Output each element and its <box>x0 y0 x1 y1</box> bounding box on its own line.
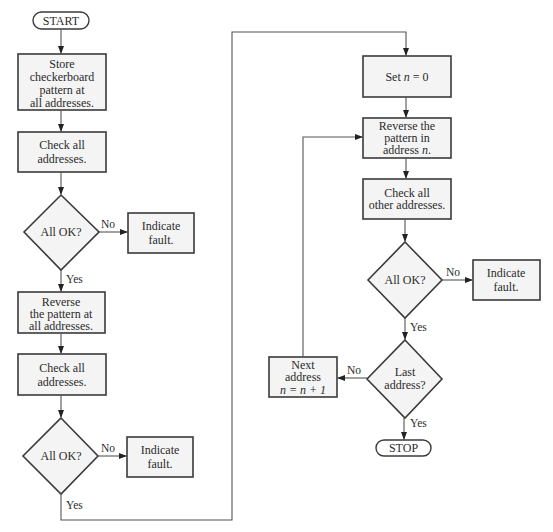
svg-text:Indicate: Indicate <box>141 443 180 457</box>
decision-last-address: Last address? <box>367 340 442 418</box>
check-all-box-2: Check all addresses. <box>18 354 106 395</box>
yes-label-4: Yes <box>410 417 427 429</box>
svg-text:addresses.: addresses. <box>38 152 87 166</box>
yes-label-1: Yes <box>66 273 83 285</box>
store-pattern-box: Store checkerboard pattern at all addres… <box>18 54 106 110</box>
no-label-2: No <box>101 442 115 454</box>
svg-text:Set n = 0: Set n = 0 <box>385 70 428 84</box>
svg-text:all addresses.: all addresses. <box>29 319 93 333</box>
reverse-pattern-box: Reverse the pattern at all addresses. <box>18 292 105 333</box>
flowchart-canvas: START Store checkerboard pattern at all … <box>0 0 553 532</box>
svg-text:addresses.: addresses. <box>38 375 87 389</box>
svg-text:fault.: fault. <box>149 233 174 247</box>
svg-text:n = n + 1: n = n + 1 <box>280 383 326 397</box>
set-n-box: Set n = 0 <box>363 56 451 97</box>
svg-text:Indicate: Indicate <box>487 266 526 280</box>
no-label-4: No <box>347 364 361 376</box>
svg-text:Check all: Check all <box>39 138 85 152</box>
svg-text:pattern at: pattern at <box>40 83 86 97</box>
svg-text:Check all: Check all <box>39 361 85 375</box>
svg-text:Store: Store <box>49 57 74 71</box>
svg-text:other addresses.: other addresses. <box>369 198 446 212</box>
svg-text:fault.: fault. <box>148 457 173 471</box>
loop-back-connector <box>303 137 362 357</box>
svg-text:address?: address? <box>384 378 425 392</box>
stop-label: STOP <box>389 441 418 455</box>
decision-all-ok-3: All OK? <box>368 242 442 318</box>
next-address-box: Next address n = n + 1 <box>269 357 337 397</box>
svg-text:fault.: fault. <box>494 280 519 294</box>
indicate-fault-box-3: Indicate fault. <box>473 260 540 300</box>
svg-text:Last: Last <box>395 365 416 379</box>
stop-terminal: STOP <box>376 440 431 456</box>
svg-text:All OK?: All OK? <box>41 449 82 463</box>
decision-all-ok-2: All OK? <box>23 418 98 494</box>
svg-text:All OK?: All OK? <box>41 225 82 239</box>
check-other-box: Check all other addresses. <box>363 179 451 219</box>
svg-text:All OK?: All OK? <box>385 273 426 287</box>
reverse-address-n-box: Reverse the pattern in address n. <box>363 118 451 158</box>
indicate-fault-box-2: Indicate fault. <box>127 437 193 477</box>
svg-text:Indicate: Indicate <box>142 219 181 233</box>
no-label-3: No <box>446 266 460 278</box>
start-label: START <box>43 14 80 28</box>
check-all-box-1: Check all addresses. <box>18 132 106 172</box>
svg-text:all addresses.: all addresses. <box>30 96 94 110</box>
no-label-1: No <box>101 218 115 230</box>
yes-label-3: Yes <box>410 321 427 333</box>
start-terminal: START <box>33 12 89 29</box>
svg-text:checkerboard: checkerboard <box>30 70 95 84</box>
indicate-fault-box-1: Indicate fault. <box>128 213 194 253</box>
yes-label-2: Yes <box>66 499 83 511</box>
decision-all-ok-1: All OK? <box>24 195 99 270</box>
svg-text:address n.: address n. <box>383 143 431 157</box>
